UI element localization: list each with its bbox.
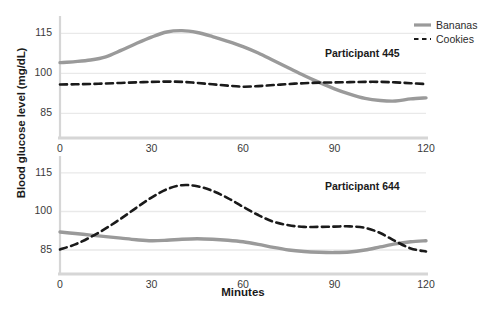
legend-label-cookies: Cookies (436, 33, 474, 45)
legend-swatch-solid-icon (414, 20, 431, 30)
x-tick-label: 60 (226, 142, 260, 154)
panel-title-bottom: Participant 644 (325, 180, 400, 192)
legend-swatch-dashed-icon (414, 34, 431, 44)
legend-label-bananas: Bananas (436, 19, 477, 31)
x-tick-label: 0 (43, 142, 77, 154)
panel-title-top: Participant 445 (325, 47, 400, 59)
series-line-bananas (60, 31, 426, 102)
y-tick-label: 85 (18, 106, 52, 118)
y-tick-label: 115 (18, 26, 52, 38)
y-tick-label: 100 (18, 66, 52, 78)
series-line-cookies (60, 82, 426, 87)
y-tick-label: 100 (18, 204, 52, 216)
chart-panel-participant-644: Participant 644 (0, 152, 493, 286)
x-axis-title: Minutes (60, 286, 426, 298)
legend-item-bananas: Bananas (414, 18, 493, 32)
chart-legend: Bananas Cookies (414, 18, 493, 46)
legend-item-cookies: Cookies (414, 32, 493, 46)
x-tick-label: 90 (318, 142, 352, 154)
y-tick-label: 115 (18, 166, 52, 178)
plot-area-bottom (0, 152, 493, 286)
x-tick-label: 30 (135, 142, 169, 154)
x-tick-label: 120 (409, 142, 443, 154)
chart-figure: Blood glucose level (mg/dL) Participant … (0, 0, 493, 309)
y-tick-label: 85 (18, 243, 52, 255)
